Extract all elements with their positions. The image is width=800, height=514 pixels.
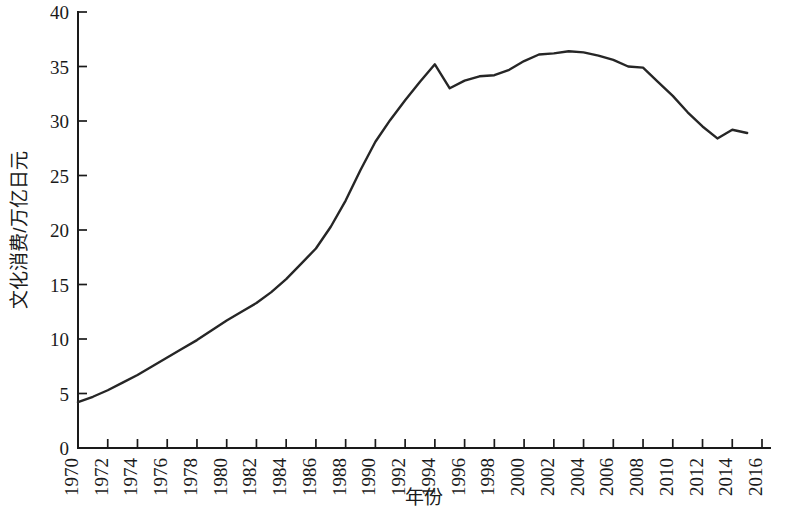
x-tick-label: 1972 — [91, 458, 112, 496]
x-tick-label: 2002 — [537, 458, 558, 496]
data-series-line — [78, 51, 747, 402]
x-tick-label: 1990 — [358, 458, 379, 496]
x-tick-label: 1970 — [61, 458, 82, 496]
x-tick-label: 1996 — [448, 458, 469, 496]
x-axis-ticks — [78, 439, 762, 448]
line-chart: 0510152025303540 19701972197419761978198… — [0, 0, 800, 514]
y-tick-label: 20 — [50, 220, 69, 241]
x-tick-label: 1986 — [299, 458, 320, 496]
chart-container: 0510152025303540 19701972197419761978198… — [0, 0, 800, 514]
y-tick-label: 25 — [50, 166, 69, 187]
x-tick-label: 1998 — [477, 458, 498, 496]
y-tick-label: 40 — [50, 2, 69, 23]
y-tick-label: 10 — [50, 329, 69, 350]
x-tick-label: 2016 — [745, 458, 766, 496]
y-tick-label: 5 — [60, 384, 70, 405]
x-tick-label: 2000 — [507, 458, 528, 496]
y-axis-title: 文化消费/万亿日元 — [9, 151, 30, 308]
x-tick-label: 2004 — [567, 458, 588, 497]
x-tick-label: 1980 — [210, 458, 231, 496]
x-tick-label: 2012 — [686, 458, 707, 496]
x-tick-label: 1984 — [269, 458, 290, 497]
x-tick-label: 1988 — [329, 458, 350, 496]
x-tick-label: 1978 — [180, 458, 201, 496]
y-tick-label: 30 — [50, 111, 69, 132]
x-axis-title: 年份 — [405, 487, 443, 508]
x-tick-label: 2008 — [626, 458, 647, 496]
y-tick-label: 0 — [60, 438, 70, 459]
y-axis-ticks — [78, 12, 87, 448]
y-tick-label: 35 — [50, 57, 69, 78]
y-tick-label: 15 — [50, 275, 69, 296]
x-tick-label: 1982 — [239, 458, 260, 496]
x-tick-label: 2014 — [715, 458, 736, 497]
x-tick-label: 1974 — [120, 458, 141, 497]
x-tick-label: 2006 — [596, 458, 617, 496]
y-axis-tick-labels: 0510152025303540 — [50, 2, 69, 459]
x-tick-label: 2010 — [656, 458, 677, 496]
x-tick-label: 1976 — [150, 458, 171, 496]
